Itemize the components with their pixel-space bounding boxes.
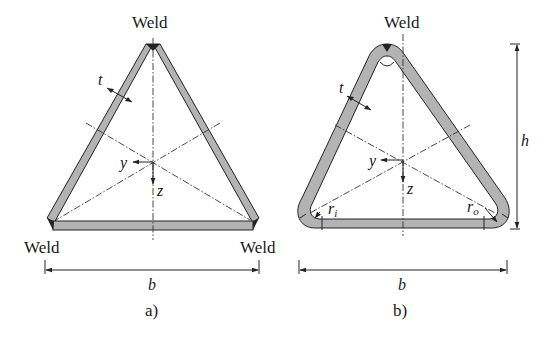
thickness-arrow-icon bbox=[364, 105, 371, 110]
weld-arc bbox=[380, 62, 394, 66]
z-axis-label-b: z bbox=[406, 180, 414, 197]
z-axis-label: z bbox=[156, 182, 164, 199]
y-axis-label: y bbox=[118, 154, 128, 172]
thickness-arrow-icon bbox=[125, 97, 132, 102]
outer-radius-label: ro bbox=[467, 198, 479, 217]
thickness-arrow-icon bbox=[107, 88, 114, 93]
weld-label-right: Weld bbox=[240, 238, 276, 257]
weld-label-left: Weld bbox=[24, 238, 60, 257]
width-label: b bbox=[148, 276, 156, 293]
caption-a: a) bbox=[145, 301, 158, 320]
panel-a: y z t Weld Weld Weld b a) bbox=[24, 13, 276, 320]
inner-radius-label: ri bbox=[328, 200, 337, 219]
inner-radius-arrow bbox=[315, 212, 320, 218]
weld-label-top-b: Weld bbox=[384, 13, 420, 32]
height-label: h bbox=[521, 132, 529, 149]
figure-canvas: y z t Weld Weld Weld b a) bbox=[0, 0, 552, 343]
right-plate bbox=[153, 44, 259, 223]
y-axis-label-b: y bbox=[367, 152, 377, 170]
thickness-label-b: t bbox=[339, 79, 344, 96]
width-label-b: b bbox=[398, 276, 406, 293]
panel-b: y z t ri ro Weld h b b) bbox=[298, 13, 529, 320]
weld-label-top: Weld bbox=[132, 13, 168, 32]
thickness-label: t bbox=[98, 71, 103, 88]
caption-b: b) bbox=[393, 301, 407, 320]
